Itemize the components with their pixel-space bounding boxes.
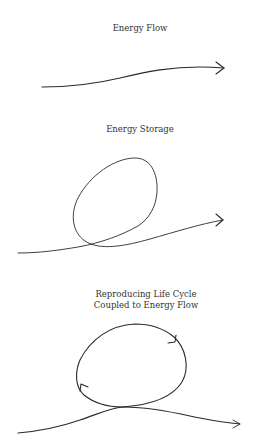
diagram-drawing xyxy=(0,0,268,448)
diagram-page: Energy Flow Energy Storage Reproducing L… xyxy=(0,0,268,448)
life-cycle-diagram xyxy=(18,324,240,433)
energy-flow-diagram xyxy=(42,62,224,87)
life-cycle-closed-loop xyxy=(77,324,187,407)
life-cycle-incoming-flow xyxy=(18,407,123,433)
cycle-arrow-top-right-icon xyxy=(168,335,176,343)
energy-storage-diagram xyxy=(18,158,223,253)
energy-storage-flow-curve xyxy=(18,158,223,253)
cycle-arrow-left-icon xyxy=(80,384,88,391)
energy-flow-curve xyxy=(42,67,224,87)
life-cycle-outgoing-flow xyxy=(123,407,240,424)
